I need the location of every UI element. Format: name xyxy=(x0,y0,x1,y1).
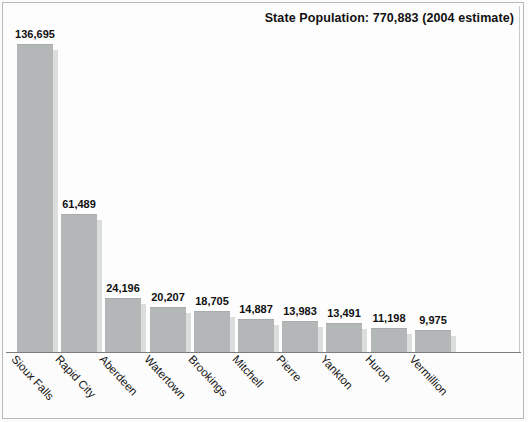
bar-value-label: 136,695 xyxy=(9,28,61,40)
category-label-rapid-city: Rapid City xyxy=(53,353,98,400)
category-label-huron: Huron xyxy=(363,353,393,384)
category-label-mitchell: Mitchell xyxy=(230,353,265,390)
category-label-sioux-falls: Sioux Falls xyxy=(9,353,56,402)
bar-huron[interactable] xyxy=(371,328,407,353)
category-label-watertown: Watertown xyxy=(142,353,188,401)
bar-aberdeen[interactable] xyxy=(105,298,141,353)
bar-group[interactable] xyxy=(415,0,457,353)
category-label-brookings: Brookings xyxy=(186,353,230,399)
bar-sioux-falls[interactable] xyxy=(17,44,53,353)
bar-brookings[interactable] xyxy=(194,311,230,353)
bar-watertown[interactable] xyxy=(150,307,186,353)
bar-group[interactable] xyxy=(326,0,368,353)
bar-group[interactable] xyxy=(282,0,324,353)
bar-group[interactable] xyxy=(238,0,280,353)
category-label-aberdeen: Aberdeen xyxy=(97,353,140,398)
bar-rapid-city[interactable] xyxy=(61,214,97,353)
bar-mitchell[interactable] xyxy=(238,319,274,353)
bar-chart-figure: State Population: 770,883 (2004 estimate… xyxy=(0,0,528,422)
bar-yankton[interactable] xyxy=(326,323,362,353)
bar-vermillion[interactable] xyxy=(415,330,451,353)
category-labels-layer: Sioux FallsRapid CityAberdeenWatertownBr… xyxy=(0,353,528,422)
bar-value-label: 61,489 xyxy=(53,198,105,210)
bar-group[interactable] xyxy=(17,0,59,353)
bar-group[interactable] xyxy=(105,0,147,353)
bar-pierre[interactable] xyxy=(282,321,318,353)
bar-group[interactable] xyxy=(371,0,413,353)
bar-group[interactable] xyxy=(61,0,103,353)
category-label-yankton: Yankton xyxy=(318,353,355,391)
bars-layer: 136,69561,48924,19620,20718,70514,88713,… xyxy=(0,0,528,353)
category-label-vermillion: Vermillion xyxy=(407,353,450,398)
category-label-pierre: Pierre xyxy=(274,353,304,384)
bar-value-label: 9,975 xyxy=(407,314,459,326)
